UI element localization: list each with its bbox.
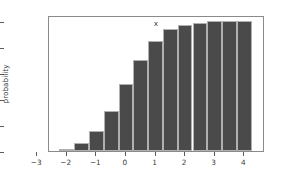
x-axis-tick-label: 1 (152, 158, 157, 167)
x-axis-tick-label: 2 (182, 158, 187, 167)
bar (163, 29, 178, 151)
x-axis-tick-label: −3 (31, 158, 42, 167)
x-axis-tick (95, 152, 96, 156)
bar-series (49, 17, 263, 151)
plot-area (48, 16, 264, 152)
bar (207, 21, 222, 151)
bar (133, 60, 148, 151)
bar (59, 149, 74, 151)
y-axis-tick (0, 22, 4, 23)
bar (89, 131, 104, 151)
bar (222, 21, 237, 151)
x-axis-label: x (154, 19, 158, 28)
x-axis-tick-label: 4 (241, 158, 246, 167)
x-axis-tick (214, 152, 215, 156)
x-axis-tick (184, 152, 185, 156)
bar (104, 111, 119, 151)
bar (178, 25, 193, 151)
x-axis-tick (66, 152, 67, 156)
x-axis-tick-label: 3 (211, 158, 216, 167)
y-axis-tick (0, 48, 4, 49)
x-axis: −3−2−101234 (0, 152, 282, 183)
y-axis-tick (0, 126, 4, 127)
x-axis-tick (155, 152, 156, 156)
x-axis-tick-label: −2 (60, 158, 71, 167)
x-axis-tick-label: 0 (123, 158, 128, 167)
bar (193, 23, 208, 151)
bar (74, 143, 89, 151)
x-axis-tick (125, 152, 126, 156)
chart-figure: 0.00.20.40.60.81.0 probability −3−2−1012… (0, 0, 282, 183)
bar (237, 21, 252, 151)
bar (119, 84, 134, 151)
x-axis-tick (36, 152, 37, 156)
y-axis-label: probability (1, 65, 10, 104)
x-axis-tick (243, 152, 244, 156)
x-axis-tick-label: −1 (90, 158, 101, 167)
bar (148, 41, 163, 151)
